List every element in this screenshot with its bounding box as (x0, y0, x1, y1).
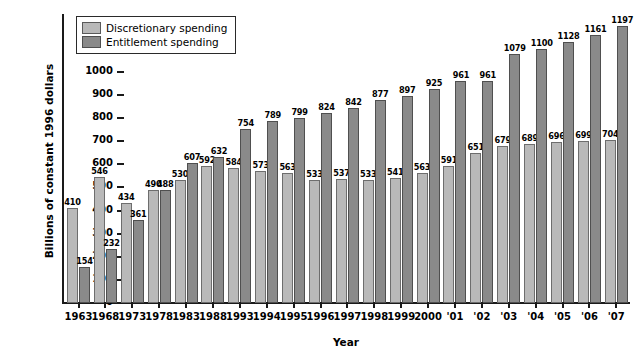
x-axis-tick-label: 1998 (360, 311, 388, 322)
bar[interactable]: 842 (348, 108, 359, 303)
x-axis-tick-group: 1994 (255, 304, 278, 330)
legend-item[interactable]: Entitlement spending (82, 35, 227, 49)
bar[interactable]: 699 (578, 141, 589, 303)
bar[interactable]: 607 (187, 163, 198, 303)
bar-value-label: 789 (264, 110, 281, 120)
bar[interactable]: 925 (429, 89, 440, 303)
bar[interactable]: 154 (79, 267, 90, 303)
x-axis-tick-group: 1993 (228, 304, 251, 330)
bar[interactable]: 789 (267, 121, 278, 303)
bar[interactable]: 1100 (536, 49, 547, 303)
x-axis-tick-group: 1983 (175, 304, 198, 330)
bar[interactable]: 533 (363, 180, 374, 303)
bar[interactable]: 592 (201, 166, 212, 303)
bar[interactable]: 651 (470, 153, 481, 304)
bar-value-label: 232 (103, 238, 120, 248)
bar-value-label: 488 (157, 179, 174, 189)
bar[interactable]: 1197 (617, 26, 628, 303)
legend-item[interactable]: Discretionary spending (82, 21, 227, 35)
x-axis-tick-mark (212, 302, 214, 308)
x-axis-tick-label: 1997 (333, 311, 361, 322)
bar[interactable]: 1128 (563, 42, 574, 303)
x-axis-tick-group: '06 (578, 304, 601, 330)
legend-item-label: Discretionary spending (106, 22, 227, 34)
bar[interactable]: 563 (282, 173, 293, 303)
x-axis-tick-mark (481, 302, 483, 308)
bar[interactable]: 232 (106, 249, 117, 303)
x-axis-tick-mark (185, 302, 187, 308)
bar-value-label: 925 (426, 78, 443, 88)
x-axis-tick-group: 1973 (121, 304, 144, 330)
bar[interactable]: 533 (309, 180, 320, 303)
bar-value-label: 897 (399, 85, 416, 95)
x-axis-tick-label: '07 (608, 311, 625, 322)
x-axis-tick-label: 1993 (226, 311, 254, 322)
x-axis-tick-mark (293, 302, 295, 308)
bar[interactable]: 877 (375, 100, 386, 303)
bar[interactable]: 679 (497, 146, 508, 303)
year-group: 563925 (417, 14, 440, 303)
x-axis-tick-mark (535, 302, 537, 308)
x-axis-tick-mark (615, 302, 617, 308)
x-axis-tick-mark (346, 302, 348, 308)
bar[interactable]: 704 (605, 140, 616, 303)
year-group: 592632 (201, 14, 224, 303)
bar[interactable]: 1079 (509, 54, 520, 303)
bar[interactable]: 573 (255, 171, 266, 303)
bar[interactable]: 696 (551, 142, 562, 303)
bar[interactable]: 754 (240, 129, 251, 303)
bar-value-label: 434 (118, 192, 135, 202)
x-axis-tick-group: 1963 (67, 304, 90, 330)
x-axis-tick-group: '01 (443, 304, 466, 330)
bar[interactable]: 961 (455, 81, 466, 303)
x-axis-title: Year (62, 336, 630, 348)
bar[interactable]: 361 (133, 220, 144, 303)
year-group: 410154 (67, 14, 90, 303)
x-axis-tick-group: '04 (524, 304, 547, 330)
year-group: 651961 (470, 14, 493, 303)
x-axis-tick-label: 2000 (414, 311, 442, 322)
bar[interactable]: 824 (321, 113, 332, 304)
bar[interactable]: 591 (443, 166, 454, 303)
bar-value-label: 546 (91, 166, 108, 176)
bar[interactable]: 584 (228, 168, 239, 303)
x-axis-tick-group: 1997 (336, 304, 359, 330)
bar[interactable]: 488 (160, 190, 171, 303)
x-axis-tick-group: 1995 (282, 304, 305, 330)
x-axis-tick-label: 1994 (253, 311, 281, 322)
bar-value-label: 877 (372, 89, 389, 99)
bar[interactable]: 632 (213, 157, 224, 303)
bar[interactable]: 490 (148, 190, 159, 303)
x-axis-tick-group: '05 (551, 304, 574, 330)
bar[interactable]: 563 (417, 173, 428, 303)
x-axis-tick-mark (104, 302, 106, 308)
x-axis-tick-label: 1999 (387, 311, 415, 322)
x-axis-tick-group: 1988 (201, 304, 224, 330)
bar[interactable]: 541 (390, 178, 401, 303)
bar[interactable]: 1161 (590, 35, 601, 303)
bar[interactable]: 537 (336, 179, 347, 303)
x-axis-tick-label: 1963 (65, 311, 93, 322)
bar-chart: Billions of constant 1996 dollars 010020… (0, 0, 640, 361)
bar-value-label: 1100 (531, 38, 553, 48)
legend-swatch-icon (82, 22, 101, 34)
bar[interactable]: 897 (402, 96, 413, 303)
legend-swatch-icon (82, 36, 101, 48)
x-axis-tick-label: '06 (581, 311, 598, 322)
bar[interactable]: 961 (482, 81, 493, 303)
y-axis-title: Billions of constant 1996 dollars (43, 16, 55, 306)
x-axis-tick-group: '02 (470, 304, 493, 330)
year-group: 591961 (443, 14, 466, 303)
year-group: 6991161 (578, 14, 601, 303)
bar-value-label: 754 (238, 118, 255, 128)
legend-item-label: Entitlement spending (106, 36, 219, 48)
x-axis-tick-label: '04 (527, 311, 544, 322)
bar[interactable]: 799 (294, 118, 305, 303)
bar[interactable]: 689 (524, 144, 535, 303)
bar-value-label: 361 (130, 209, 147, 219)
x-axis-tick-group: '03 (497, 304, 520, 330)
year-group: 546232 (94, 14, 117, 303)
year-group: 541897 (390, 14, 413, 303)
bar[interactable]: 530 (175, 180, 186, 303)
year-group: 573789 (255, 14, 278, 303)
